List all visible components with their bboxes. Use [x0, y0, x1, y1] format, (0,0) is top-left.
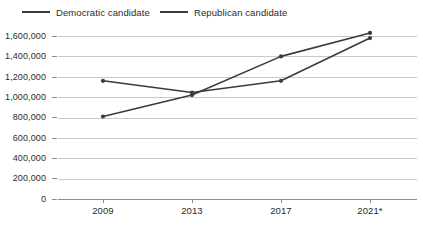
data-point [368, 36, 372, 40]
x-tick-mark [370, 199, 371, 203]
x-tick-label-2013: 2013 [162, 205, 222, 216]
x-tick-mark [192, 199, 193, 203]
x-tick-label-2009: 2009 [73, 205, 133, 216]
data-point [101, 79, 105, 83]
x-tick-mark [103, 199, 104, 203]
x-tick-label-2017: 2017 [251, 205, 311, 216]
data-point [279, 79, 283, 83]
line-chart: Democratic candidate Republican candidat… [0, 0, 423, 230]
series-line-democratic [103, 38, 370, 93]
series-layer [0, 0, 423, 230]
data-point [101, 114, 105, 118]
x-tick-mark [281, 199, 282, 203]
series-line-republican [103, 33, 370, 117]
x-tick-label-2021: 2021* [340, 205, 400, 216]
data-point [279, 54, 283, 58]
data-point [368, 31, 372, 35]
data-point [190, 93, 194, 97]
